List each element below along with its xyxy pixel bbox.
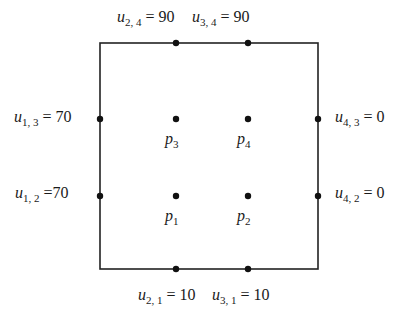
point-u34 bbox=[245, 40, 251, 46]
label-subscript: 1, 2 bbox=[23, 192, 40, 204]
label-subscript: 3 bbox=[173, 138, 179, 150]
point-u43 bbox=[315, 116, 321, 122]
label-p2: p2 bbox=[237, 208, 251, 227]
label-variable: u bbox=[335, 184, 343, 201]
label-subscript: 3, 4 bbox=[200, 16, 217, 28]
label-variable: p bbox=[165, 130, 173, 147]
label-variable: u bbox=[192, 8, 200, 25]
label-subscript: 2, 4 bbox=[125, 16, 142, 28]
label-variable: p bbox=[165, 207, 173, 224]
label-variable: p bbox=[237, 130, 245, 147]
label-subscript: 3, 1 bbox=[220, 294, 237, 306]
label-p4: p4 bbox=[237, 131, 251, 150]
point-u24 bbox=[173, 40, 179, 46]
point-p2 bbox=[245, 193, 251, 199]
label-value: = 10 bbox=[163, 286, 196, 303]
label-u43: u4, 3 = 0 bbox=[335, 109, 385, 128]
label-u13: u1, 3 = 70 bbox=[14, 109, 72, 128]
label-u24: u2, 4 = 90 bbox=[117, 9, 175, 28]
point-u13 bbox=[97, 116, 103, 122]
label-u42: u4, 2 = 0 bbox=[335, 185, 385, 204]
label-value: = 90 bbox=[142, 8, 175, 25]
label-subscript: 4 bbox=[245, 138, 251, 150]
point-u12 bbox=[97, 193, 103, 199]
grid-diagram bbox=[0, 0, 416, 327]
label-u12: u1, 2 =70 bbox=[15, 185, 69, 204]
label-value: = 90 bbox=[217, 8, 250, 25]
label-variable: p bbox=[237, 207, 245, 224]
label-subscript: 1, 3 bbox=[22, 116, 39, 128]
label-variable: u bbox=[335, 108, 343, 125]
boundary-box bbox=[100, 43, 318, 269]
label-p3: p3 bbox=[165, 131, 179, 150]
label-variable: u bbox=[117, 8, 125, 25]
label-variable: u bbox=[14, 108, 22, 125]
label-u21: u2, 1 = 10 bbox=[138, 287, 196, 306]
point-u42 bbox=[315, 193, 321, 199]
label-variable: u bbox=[138, 286, 146, 303]
label-subscript: 2 bbox=[245, 215, 251, 227]
point-u21 bbox=[173, 266, 179, 272]
point-p1 bbox=[173, 193, 179, 199]
label-u34: u3, 4 = 90 bbox=[192, 9, 250, 28]
label-value: = 0 bbox=[360, 184, 385, 201]
label-value: = 70 bbox=[39, 108, 72, 125]
point-p3 bbox=[173, 116, 179, 122]
label-variable: u bbox=[212, 286, 220, 303]
grid-points bbox=[97, 40, 321, 272]
point-u31 bbox=[245, 266, 251, 272]
point-p4 bbox=[245, 116, 251, 122]
label-subscript: 2, 1 bbox=[146, 294, 163, 306]
label-p1: p1 bbox=[165, 208, 179, 227]
label-subscript: 4, 2 bbox=[343, 192, 360, 204]
label-value: =70 bbox=[40, 184, 69, 201]
label-subscript: 1 bbox=[173, 215, 179, 227]
label-value: = 0 bbox=[360, 108, 385, 125]
label-value: = 10 bbox=[237, 286, 270, 303]
label-subscript: 4, 3 bbox=[343, 116, 360, 128]
label-variable: u bbox=[15, 184, 23, 201]
label-u31: u3, 1 = 10 bbox=[212, 287, 270, 306]
